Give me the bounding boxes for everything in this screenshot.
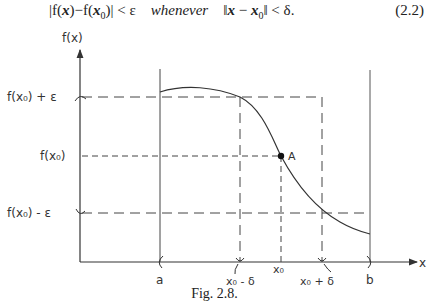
y-axis-label: f(x) — [62, 31, 83, 45]
figure-caption: Fig. 2.8. — [0, 286, 429, 302]
point-a-label: A — [288, 150, 296, 163]
point-a-dot — [278, 153, 284, 159]
label-x0: x₀ — [273, 263, 285, 276]
label-a: a — [156, 273, 163, 287]
figure-2-8: A f(x) x f(x₀) + ε f(x₀) f(x₀) - ε a x₀ … — [0, 0, 429, 307]
x-axis-label: x — [419, 256, 426, 270]
tick-hook-right-delta — [318, 258, 331, 272]
label-f-minus-eps: f(x₀) - ε — [7, 206, 51, 220]
function-curve — [160, 87, 370, 234]
label-b: b — [366, 273, 374, 287]
tick-hook-left-delta — [235, 258, 244, 274]
label-f-plus-eps: f(x₀) + ε — [7, 90, 57, 104]
label-f-x0: f(x₀) — [40, 149, 66, 163]
